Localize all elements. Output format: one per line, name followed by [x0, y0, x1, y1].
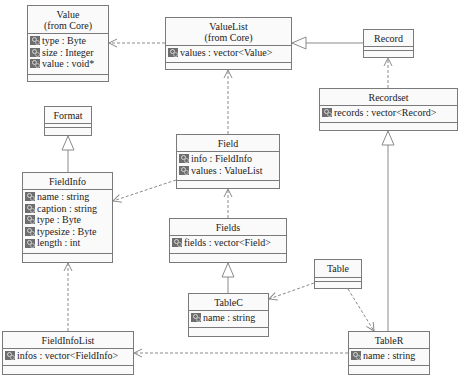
class-name: Fields: [170, 219, 286, 236]
class-table[interactable]: Table: [314, 259, 362, 289]
edge-table-tablec: [269, 283, 314, 299]
attribute-text: size : Integer: [42, 47, 94, 59]
attribute: infos : vector<FieldInfo>: [5, 350, 132, 362]
class-fieldinfolist[interactable]: FieldInfoList infos : vector<FieldInfo>: [2, 331, 134, 375]
attribute: size : Integer: [30, 47, 107, 59]
class-tabler[interactable]: TableR name : string: [348, 331, 430, 375]
edge-field-fieldinfo: [113, 180, 176, 201]
attribute-text: name : string: [37, 191, 89, 203]
attribute-text: records : vector<Record>: [334, 107, 436, 119]
class-name: TableR: [349, 332, 429, 349]
private-attribute-icon: [25, 204, 35, 213]
class-name: FieldInfoList: [3, 332, 133, 349]
class-name: Value (from Core): [28, 6, 108, 34]
attributes: [315, 278, 361, 282]
private-attribute-icon: [351, 351, 361, 360]
class-recordset[interactable]: Recordset records : vector<Record>: [319, 88, 458, 131]
class-name: Table: [315, 260, 361, 278]
class-tablec[interactable]: TableC name : string: [188, 293, 269, 337]
class-record[interactable]: Record: [363, 29, 414, 58]
private-attribute-icon: [179, 154, 189, 163]
attribute: values : vector<Value>: [168, 47, 290, 59]
attribute: value : void*: [30, 58, 107, 70]
attribute-text: type : Byte: [42, 35, 86, 47]
private-attribute-icon: [25, 227, 35, 236]
class-valuelist[interactable]: ValueList (from Core) values : vector<Va…: [165, 17, 292, 70]
attributes: values : vector<Value>: [166, 46, 291, 63]
attributes: name : string: [349, 349, 429, 366]
private-attribute-icon: [179, 166, 189, 175]
private-attribute-icon: [30, 59, 40, 68]
class-name: Field: [177, 135, 279, 152]
attribute: caption : string: [25, 203, 111, 215]
attribute-text: values : ValueList: [191, 165, 262, 177]
attribute-text: value : void*: [42, 58, 94, 70]
class-fieldinfo[interactable]: FieldInfo name : string caption : string…: [22, 172, 113, 263]
attributes: [45, 124, 91, 128]
attributes: fields : vector<Field>: [170, 236, 286, 254]
attribute-text: typesize : Byte: [37, 226, 96, 238]
class-name: Format: [45, 107, 91, 124]
class-name: Recordset: [320, 89, 457, 106]
attribute-text: type : Byte: [37, 214, 81, 226]
class-field[interactable]: Field info : FieldInfo values : ValueLis…: [176, 134, 280, 189]
class-name: TableC: [189, 294, 268, 311]
attributes: name : string: [189, 311, 268, 328]
attribute-text: caption : string: [37, 203, 97, 215]
attributes: type : Byte size : Integer value : void*: [28, 34, 108, 75]
attribute: typesize : Byte: [25, 226, 111, 238]
attribute: records : vector<Record>: [322, 107, 456, 119]
private-attribute-icon: [5, 351, 15, 360]
attributes: records : vector<Record>: [320, 106, 457, 123]
class-name: Record: [364, 30, 413, 47]
attribute-text: fields : vector<Field>: [184, 237, 271, 249]
private-attribute-icon: [25, 239, 35, 248]
attributes: [364, 47, 413, 51]
attribute: name : string: [351, 350, 428, 362]
attribute: fields : vector<Field>: [172, 237, 285, 249]
attribute-text: infos : vector<FieldInfo>: [17, 350, 118, 362]
private-attribute-icon: [25, 192, 35, 201]
attributes: infos : vector<FieldInfo>: [3, 349, 133, 366]
uml-class-diagram: Value (from Core) type : Byte size : Int…: [0, 0, 460, 384]
class-fields[interactable]: Fields fields : vector<Field>: [169, 218, 287, 263]
edge-table-tabler: [348, 289, 374, 331]
private-attribute-icon: [25, 215, 35, 224]
attribute: length : int: [25, 237, 111, 249]
class-format[interactable]: Format: [44, 106, 92, 136]
attribute: type : Byte: [30, 35, 107, 47]
attribute: info : FieldInfo: [179, 153, 278, 165]
attribute-text: name : string: [363, 350, 415, 362]
attributes: info : FieldInfo values : ValueList: [177, 152, 279, 181]
attribute-text: length : int: [37, 237, 80, 249]
attribute: values : ValueList: [179, 165, 278, 177]
attribute-text: name : string: [203, 312, 255, 324]
private-attribute-icon: [168, 48, 178, 57]
attribute-text: values : vector<Value>: [180, 47, 272, 59]
attributes: name : string caption : string type : By…: [23, 190, 112, 254]
attribute: name : string: [25, 191, 111, 203]
class-value[interactable]: Value (from Core) type : Byte size : Int…: [27, 5, 109, 82]
private-attribute-icon: [172, 238, 182, 247]
private-attribute-icon: [322, 108, 332, 117]
class-name: ValueList (from Core): [166, 18, 291, 46]
private-attribute-icon: [30, 36, 40, 45]
attribute-text: info : FieldInfo: [191, 153, 252, 165]
private-attribute-icon: [30, 48, 40, 57]
private-attribute-icon: [191, 313, 201, 322]
attribute: type : Byte: [25, 214, 111, 226]
class-name: FieldInfo: [23, 173, 112, 190]
attribute: name : string: [191, 312, 267, 324]
